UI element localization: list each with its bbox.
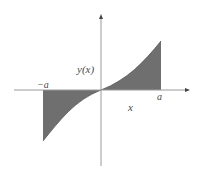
y-axis-arrow-icon xyxy=(99,14,103,19)
x-axis-label: x xyxy=(127,101,133,113)
odd-function-diagram: y(x) x −a a xyxy=(0,0,204,178)
shaded-region-negative xyxy=(43,90,101,141)
x-axis-arrow-icon xyxy=(185,88,190,92)
left-bound-label: −a xyxy=(37,79,49,90)
y-axis-label: y(x) xyxy=(76,63,94,76)
shaded-region-positive xyxy=(101,41,161,90)
right-bound-label: a xyxy=(157,91,162,102)
